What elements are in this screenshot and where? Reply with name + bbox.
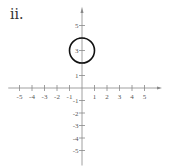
y-tick-label: 3: [75, 47, 79, 55]
x-tick-label: 4: [130, 93, 134, 101]
y-tick-label: 1: [75, 72, 79, 80]
y-tick-label: 5: [75, 22, 79, 30]
y-tick-label: -4: [73, 135, 79, 143]
x-tick-label: -5: [17, 93, 23, 101]
x-axis-arrow-icon: [157, 87, 162, 90]
y-tick-label: -1: [73, 97, 79, 105]
x-tick-label: 2: [105, 93, 109, 101]
y-axis-arrow-icon: [81, 7, 84, 13]
x-tick-label: 1: [93, 93, 97, 101]
coordinate-plane: -5-4-3-2-112345531-1-2-3-4-5: [0, 0, 171, 166]
x-tick-label: 3: [118, 93, 122, 101]
y-tick-label: -3: [73, 122, 79, 130]
y-tick-label: -2: [73, 110, 79, 118]
x-tick-label: 5: [143, 93, 147, 101]
x-tick-label: -3: [42, 93, 48, 101]
y-tick-label: -5: [73, 147, 79, 155]
x-tick-label: -2: [54, 93, 60, 101]
x-tick-label: -4: [29, 93, 35, 101]
